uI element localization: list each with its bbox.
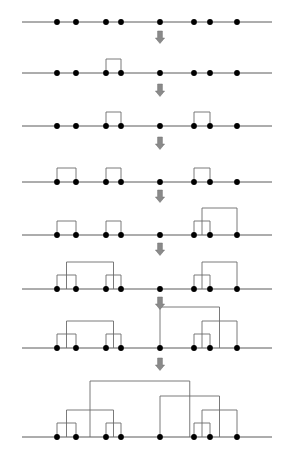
leaf-point-2 — [73, 434, 79, 440]
leaf-point-1 — [54, 123, 60, 129]
leaf-point-5 — [157, 434, 163, 440]
merge-link-1 — [106, 221, 121, 235]
merge-link-0 — [106, 59, 121, 73]
leaf-point-4 — [118, 286, 124, 292]
merge-link-3 — [202, 208, 237, 235]
leaf-point-7 — [207, 19, 213, 25]
merge-link-0 — [106, 112, 121, 126]
leaf-point-6 — [191, 286, 197, 292]
merge-link-5 — [160, 307, 220, 348]
cluster-panel-3 — [22, 168, 272, 185]
leaf-point-4 — [118, 123, 124, 129]
leaf-point-4 — [118, 70, 124, 76]
cluster-panel-0 — [22, 19, 272, 25]
cluster-panel-5 — [22, 262, 272, 292]
leaf-point-2 — [73, 179, 79, 185]
leaf-point-8 — [234, 232, 240, 238]
leaf-point-2 — [73, 19, 79, 25]
down-double-arrow-icon — [155, 243, 164, 256]
leaf-point-4 — [118, 434, 124, 440]
leaf-point-5 — [157, 232, 163, 238]
cluster-panel-4 — [22, 208, 272, 238]
down-double-arrow-icon — [155, 190, 164, 203]
cluster-panel-1 — [22, 59, 272, 76]
dendrogram-progression-svg — [0, 0, 291, 460]
step-arrow-3 — [155, 137, 164, 150]
leaf-point-2 — [73, 232, 79, 238]
cluster-panel-2 — [22, 112, 272, 129]
leaf-point-3 — [103, 345, 109, 351]
leaf-point-1 — [54, 232, 60, 238]
step-arrow-5 — [155, 243, 164, 256]
merge-link-2 — [194, 168, 210, 182]
leaf-point-3 — [103, 70, 109, 76]
leaf-point-7 — [207, 286, 213, 292]
down-double-arrow-icon — [155, 84, 164, 97]
leaf-point-8 — [234, 179, 240, 185]
merge-link-3 — [202, 262, 237, 289]
leaf-point-6 — [191, 19, 197, 25]
merge-link-1 — [106, 168, 121, 182]
cluster-panel-7 — [22, 381, 272, 440]
step-arrow-2 — [155, 84, 164, 97]
leaf-point-8 — [234, 345, 240, 351]
down-double-arrow-icon — [155, 137, 164, 150]
leaf-point-3 — [103, 19, 109, 25]
down-double-arrow-icon — [155, 358, 164, 371]
step-arrow-6 — [155, 297, 164, 310]
leaf-point-2 — [73, 70, 79, 76]
leaf-point-7 — [207, 179, 213, 185]
step-arrow-1 — [155, 31, 164, 44]
leaf-point-3 — [103, 434, 109, 440]
step-arrow-4 — [155, 190, 164, 203]
leaf-point-2 — [73, 345, 79, 351]
leaf-point-1 — [54, 19, 60, 25]
leaf-point-4 — [118, 232, 124, 238]
leaf-point-7 — [207, 232, 213, 238]
leaf-point-6 — [191, 232, 197, 238]
leaf-point-8 — [234, 19, 240, 25]
merge-link-0 — [57, 168, 76, 182]
step-arrow-7 — [155, 358, 164, 371]
leaf-point-5 — [157, 19, 163, 25]
merge-link-0 — [57, 221, 76, 235]
leaf-point-7 — [207, 123, 213, 129]
leaf-point-5 — [157, 179, 163, 185]
leaf-point-3 — [103, 179, 109, 185]
leaf-point-4 — [118, 19, 124, 25]
leaf-point-7 — [207, 70, 213, 76]
leaf-point-5 — [157, 345, 163, 351]
clustering-progression-figure — [0, 0, 291, 460]
leaf-point-1 — [54, 179, 60, 185]
cluster-panel-6 — [22, 307, 272, 351]
leaf-point-6 — [191, 434, 197, 440]
leaf-point-5 — [157, 70, 163, 76]
leaf-point-7 — [207, 434, 213, 440]
leaf-point-2 — [73, 123, 79, 129]
leaf-point-4 — [118, 345, 124, 351]
leaf-point-8 — [234, 123, 240, 129]
down-double-arrow-icon — [155, 297, 164, 310]
leaf-point-8 — [234, 286, 240, 292]
leaf-point-5 — [157, 123, 163, 129]
leaf-point-3 — [103, 123, 109, 129]
leaf-point-1 — [54, 345, 60, 351]
leaf-point-6 — [191, 179, 197, 185]
leaf-point-8 — [234, 434, 240, 440]
leaf-point-1 — [54, 286, 60, 292]
leaf-point-6 — [191, 70, 197, 76]
leaf-point-3 — [103, 232, 109, 238]
merge-link-6 — [90, 381, 190, 437]
leaf-point-7 — [207, 345, 213, 351]
leaf-point-6 — [191, 123, 197, 129]
leaf-point-6 — [191, 345, 197, 351]
leaf-point-2 — [73, 286, 79, 292]
leaf-point-5 — [157, 286, 163, 292]
leaf-point-1 — [54, 70, 60, 76]
leaf-point-3 — [103, 286, 109, 292]
merge-link-1 — [194, 112, 210, 126]
leaf-point-8 — [234, 70, 240, 76]
leaf-point-4 — [118, 179, 124, 185]
down-double-arrow-icon — [155, 31, 164, 44]
leaf-point-1 — [54, 434, 60, 440]
